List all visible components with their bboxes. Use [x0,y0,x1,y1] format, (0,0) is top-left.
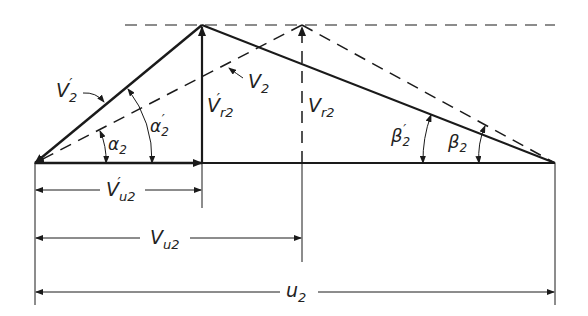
w2-line [302,25,555,163]
label-u2: u2 [286,279,306,305]
svg-text:β2′: β2′ [390,121,410,149]
svg-text:Vr2: Vr2 [308,94,335,120]
label-alpha2-prime: α2′ [150,111,169,139]
w2-prime-line [202,25,555,163]
label-beta2: β2 [447,131,467,155]
svg-text:α2: α2 [108,134,127,157]
label-vr2: Vr2 [308,94,335,120]
svg-text:α2′: α2′ [150,111,169,139]
svg-text:β2: β2 [447,131,467,155]
label-v2: V2 [248,70,269,96]
alpha2-prime-arc [128,89,152,163]
label-vr2-prime: Vr2′ [207,90,234,120]
svg-text:Vu2′: Vu2′ [106,174,136,204]
velocity-triangle-diagram: V2′ V2 Vr2′ Vr2 α2 α2′ β2′ β2 Vu2′ Vu2 u… [0,0,588,316]
svg-text:V2: V2 [248,70,269,96]
svg-text:V2′: V2′ [56,75,77,105]
svg-text:Vu2: Vu2 [150,226,180,252]
svg-text:Vr2′: Vr2′ [207,90,234,120]
label-beta2-prime: β2′ [390,121,410,149]
v2-prime-leader [83,93,104,102]
label-vu2: Vu2 [150,226,180,252]
label-vu2-prime: Vu2′ [106,174,136,204]
v2-leader [229,68,243,78]
label-v2-prime: V2′ [56,75,77,105]
beta2-arc [479,126,485,163]
svg-text:u2: u2 [286,279,306,305]
beta2-prime-arc [423,115,431,163]
label-alpha2: α2 [108,134,127,157]
alpha2-arc [100,131,106,163]
